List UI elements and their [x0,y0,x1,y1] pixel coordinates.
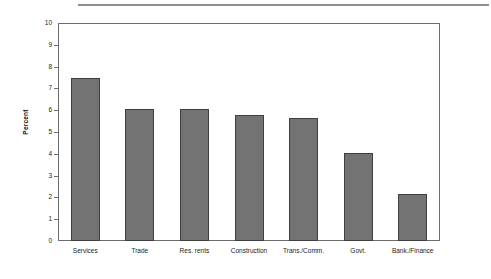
x-tick-label: Trade [113,247,168,255]
y-tick-mark [54,197,58,198]
x-tick-label: Govt. [331,247,386,255]
y-tick-mark [54,45,58,46]
x-tick-label: Services [58,247,113,255]
x-tick-label: Bank./Finance [385,247,440,255]
y-tick-mark [54,110,58,111]
y-tick-label: 6 [38,106,52,113]
bar-res-rents [180,109,209,241]
y-tick-label: 8 [38,63,52,70]
y-axis-label: Percent [22,92,29,152]
y-tick-label: 3 [38,172,52,179]
y-tick-mark [54,219,58,220]
y-tick-mark [54,67,58,68]
y-tick-mark [54,132,58,133]
y-tick-mark [54,88,58,89]
bar-trade [125,109,154,241]
y-tick-label: 2 [38,193,52,200]
y-tick-label: 0 [38,237,52,244]
x-tick-label: Trans./Comm. [276,247,331,255]
bar-construction [235,115,264,241]
x-tick-label: Res. rents [167,247,222,255]
y-tick-label: 4 [38,150,52,157]
y-tick-label: 10 [38,19,52,26]
x-tick-label: Construction [222,247,277,255]
y-tick-label: 9 [38,41,52,48]
chart-figure: Percent 012345678910 ServicesTradeRes. r… [0,0,491,279]
y-tick-label: 5 [38,128,52,135]
y-tick-label: 7 [38,84,52,91]
y-tick-mark [54,176,58,177]
bar-trans-comm [289,118,318,241]
bar-services [71,78,100,242]
bar-bank-finance [398,194,427,241]
header-rule [78,4,489,6]
y-tick-mark [54,154,58,155]
y-tick-label: 1 [38,215,52,222]
bar-govt [344,153,373,241]
